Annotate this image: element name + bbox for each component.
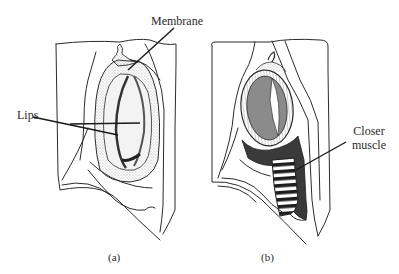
closer-muscle-leader-line [296,142,346,170]
spiracle-figure: Membrane Lips Closer muscle (a) (b) [0,0,399,274]
spiracle-drawing [0,0,399,274]
panel-a-drawing [56,39,176,240]
lips-leader-line-2 [70,123,140,124]
label-closer-muscle: Closer muscle [352,124,386,152]
label-muscle: muscle [352,138,386,152]
membrane-leader-line [128,28,174,70]
caption-panel-b: (b) [261,251,274,263]
panel-b-drawing [212,39,331,244]
caption-panel-a: (a) [108,251,120,263]
label-lips: Lips [17,108,38,122]
label-closer: Closer [352,124,386,138]
label-membrane: Membrane [151,14,203,28]
